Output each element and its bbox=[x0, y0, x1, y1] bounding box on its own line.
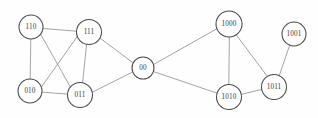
graph-node-1001[interactable]: 1001 bbox=[282, 22, 306, 46]
graph-edge-011-00 bbox=[92, 72, 132, 92]
graph-node-1010[interactable]: 1010 bbox=[217, 85, 242, 110]
graph-edge-110-010 bbox=[30, 39, 31, 79]
graph-edge-00-1010 bbox=[154, 72, 217, 94]
graph-edge-00-1000 bbox=[154, 28, 219, 64]
graph-edge-110-011 bbox=[41, 34, 71, 88]
node-label-1010: 1010 bbox=[222, 93, 237, 101]
graph-node-00[interactable]: 00 bbox=[132, 57, 154, 79]
graph-edge-1010-1011 bbox=[241, 89, 261, 94]
graph-node-1011[interactable]: 1011 bbox=[262, 75, 287, 100]
graph-edge-1000-1010 bbox=[229, 37, 230, 85]
graph-edge-111-010 bbox=[42, 36, 78, 87]
graph-node-1000[interactable]: 1000 bbox=[216, 11, 242, 37]
nodes-layer: 110111010011001000100110101011 bbox=[18, 11, 306, 110]
edges-layer bbox=[30, 28, 289, 94]
graph-edge-010-011 bbox=[42, 92, 68, 94]
node-label-1011: 1011 bbox=[267, 83, 282, 91]
node-label-011: 011 bbox=[75, 91, 86, 99]
graph-node-110[interactable]: 110 bbox=[19, 15, 43, 39]
graph-edge-110-111 bbox=[43, 29, 77, 32]
graph-node-111[interactable]: 111 bbox=[77, 20, 102, 45]
graph-node-010[interactable]: 010 bbox=[18, 79, 42, 103]
graph-edge-1011-1001 bbox=[279, 45, 289, 75]
node-label-00: 00 bbox=[139, 64, 147, 72]
node-label-110: 110 bbox=[26, 23, 37, 31]
graph-edge-111-011 bbox=[83, 44, 87, 82]
node-label-010: 010 bbox=[24, 87, 35, 95]
node-label-1000: 1000 bbox=[222, 20, 237, 28]
graph-node-011[interactable]: 011 bbox=[68, 83, 93, 108]
node-label-1001: 1001 bbox=[287, 30, 302, 38]
graph-canvas: 110111010011001000100110101011 bbox=[0, 0, 318, 118]
node-label-111: 111 bbox=[84, 28, 95, 36]
graph-diagram: 110111010011001000100110101011 bbox=[0, 0, 318, 118]
graph-edge-111-00 bbox=[100, 38, 133, 63]
graph-edge-1000-1011 bbox=[236, 35, 267, 77]
